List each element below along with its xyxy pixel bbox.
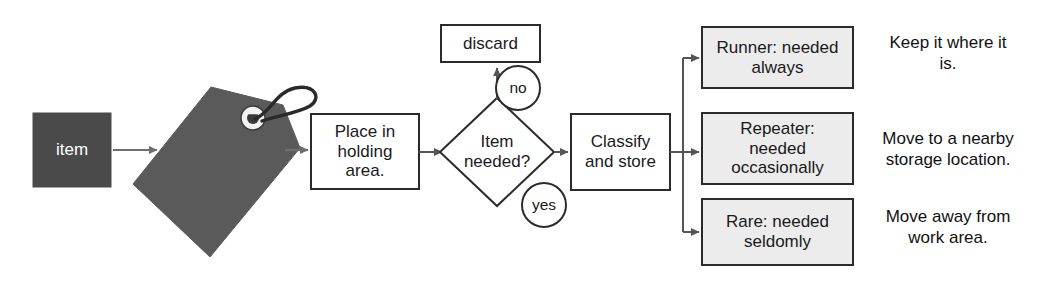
- runner-node-shape: [702, 27, 853, 88]
- discard-node-shape: [441, 25, 540, 62]
- place-holding-node-shape: [311, 114, 419, 189]
- red-tag-icon: [133, 87, 316, 257]
- classify-store-node-shape: [571, 114, 670, 190]
- rare-action-annotation: Move away from work area.: [865, 206, 1031, 249]
- rare-node-shape: [702, 199, 853, 265]
- edge-classify-branch-trunk: [670, 58, 683, 232]
- repeater-node-shape: [702, 113, 853, 184]
- edge-label-yes-shape: [522, 183, 566, 227]
- flowchart-diagram: item Place in holding area. Item needed?…: [0, 0, 1038, 288]
- runner-action-annotation: Keep it where it is.: [865, 32, 1031, 75]
- repeater-action-annotation: Move to a nearby storage location.: [865, 128, 1031, 171]
- edge-label-no-shape: [496, 66, 540, 110]
- item-node-shape: [33, 113, 111, 187]
